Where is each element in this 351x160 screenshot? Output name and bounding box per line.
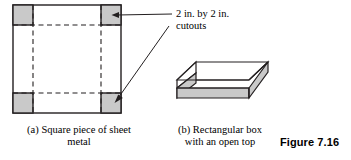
- open-top-box-diagram: [177, 62, 268, 98]
- cutout-top-left: [13, 5, 33, 25]
- cutout-annotation-line-1: 2 in. by 2 in.: [176, 8, 229, 20]
- leader-line-top-cutout: [117, 14, 172, 15]
- cutout-bottom-left: [13, 93, 33, 113]
- box-front-wall: [177, 88, 249, 98]
- cutout-annotation-line-2: cutouts: [176, 20, 206, 32]
- figure-7-16: 2 in. by 2 in. cutouts (a) Square piece …: [0, 0, 351, 160]
- square-sheet-metal-diagram: [13, 5, 121, 113]
- figure-number-label: Figure 7.16: [280, 136, 339, 148]
- caption-rectangular-box: (b) Rectangular box with an open top: [168, 124, 272, 148]
- caption-square-sheet-metal: (a) Square piece of sheet metal: [16, 124, 142, 148]
- leader-line-bottom-cutout: [119, 26, 170, 98]
